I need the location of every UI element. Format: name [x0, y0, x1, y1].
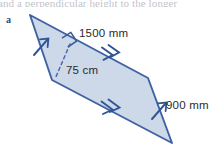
part-label-a: a — [6, 14, 11, 25]
diagram-page: and a perpendicular height to the longer… — [0, 0, 221, 148]
dimension-label-top-side: 1500 mm — [79, 27, 128, 39]
dimension-label-height: 75 cm — [66, 64, 98, 76]
parallelogram-figure — [0, 0, 221, 148]
dimension-label-side: 900 mm — [166, 99, 209, 111]
